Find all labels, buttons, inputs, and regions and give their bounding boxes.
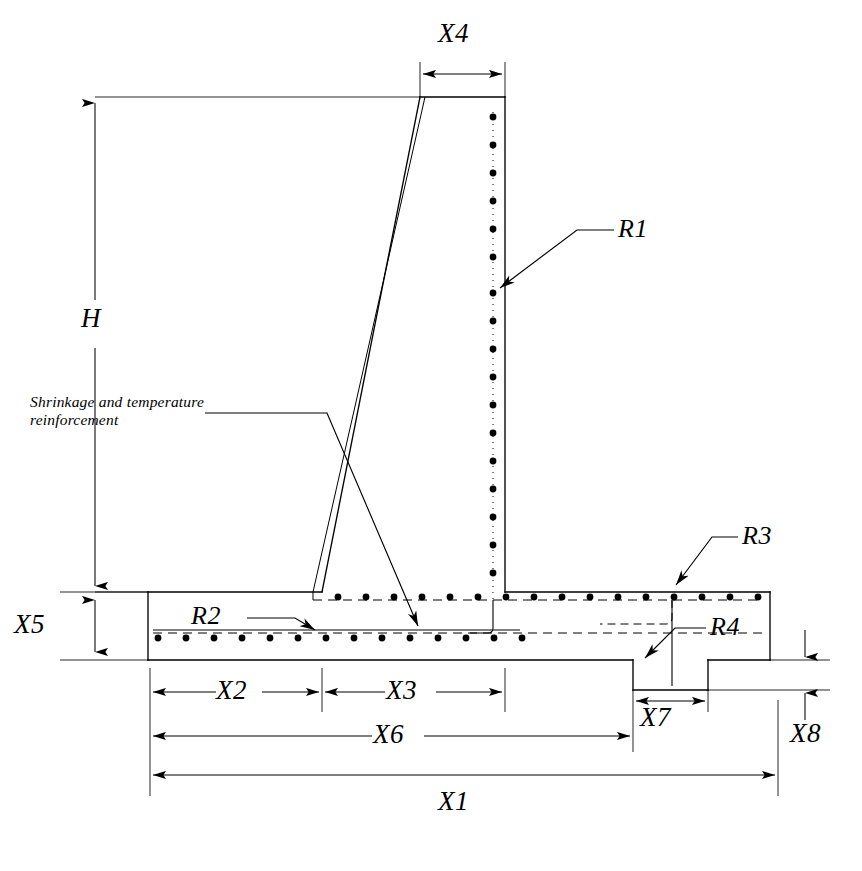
figure-canvas: X4 H Shrinkage and temperature reinforce… [0, 0, 862, 871]
dimension-X1 [150, 700, 778, 796]
dimension-label-X7: X7 [640, 702, 671, 734]
dimension-label-X2: X2 [216, 675, 247, 707]
dimension-label-X6: X6 [373, 719, 404, 751]
dimension-label-H: H [81, 303, 101, 335]
rebar-stem-vertical-R1 [470, 112, 496, 633]
page-header-remnant [330, 0, 333, 12]
rebar-label-R2: R2 [191, 601, 221, 632]
rebar-label-R1: R1 [618, 214, 648, 245]
dimension-label-X5: X5 [14, 609, 45, 641]
dimension-X4 [420, 62, 505, 97]
leader-R3 [676, 537, 738, 585]
shrinkage-note: Shrinkage and temperature reinforcement [30, 393, 204, 430]
shrinkage-note-line2: reinforcement [30, 411, 118, 428]
leader-R1 [500, 230, 614, 288]
dimension-label-X1: X1 [438, 786, 469, 818]
shrinkage-note-line1: Shrinkage and temperature [30, 393, 204, 410]
leader-shrinkage-note [205, 97, 425, 626]
retaining-wall-cross-section [0, 0, 862, 871]
rebar-label-R3: R3 [742, 521, 772, 552]
rebar-shear-key-R4 [600, 600, 672, 686]
rebar-footing-bottom-R2 [153, 630, 766, 641]
dimension-X8 [708, 630, 830, 720]
leader-R2 [247, 618, 315, 630]
dimension-X5 [60, 592, 148, 660]
dimension-label-X8: X8 [790, 718, 821, 750]
dimension-label-X3: X3 [386, 675, 417, 707]
rebar-label-R4: R4 [710, 612, 740, 643]
rebar-footing-top-R3 [313, 592, 761, 600]
dimension-label-X4: X4 [438, 18, 469, 50]
wall-outline [148, 97, 770, 690]
